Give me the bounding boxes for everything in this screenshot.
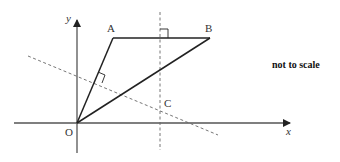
- right-angle-marker-oa: [98, 72, 105, 83]
- not-to-scale-note: not to scale: [272, 59, 320, 70]
- point-b-label: B: [205, 22, 212, 34]
- point-c-label: C: [164, 97, 171, 109]
- y-axis-label: y: [65, 12, 71, 24]
- geometry-diagram: y x O A B C not to scale: [0, 0, 340, 162]
- segment-ob: [77, 38, 210, 123]
- point-a-label: A: [107, 22, 115, 34]
- right-angle-marker-ab: [160, 29, 168, 38]
- x-axis-label: x: [285, 125, 291, 137]
- segment-oa: [77, 38, 113, 123]
- origin-label: O: [65, 126, 73, 138]
